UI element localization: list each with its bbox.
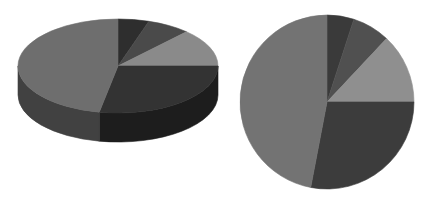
pie-chart-figure <box>0 0 434 210</box>
pie-slice-d[interactable] <box>311 102 414 189</box>
left-pie-3d-chart[interactable] <box>18 19 218 142</box>
pie-slice-e[interactable] <box>240 15 327 187</box>
pie-charts-canvas <box>0 0 434 210</box>
right-pie-2d-chart[interactable] <box>240 15 414 189</box>
